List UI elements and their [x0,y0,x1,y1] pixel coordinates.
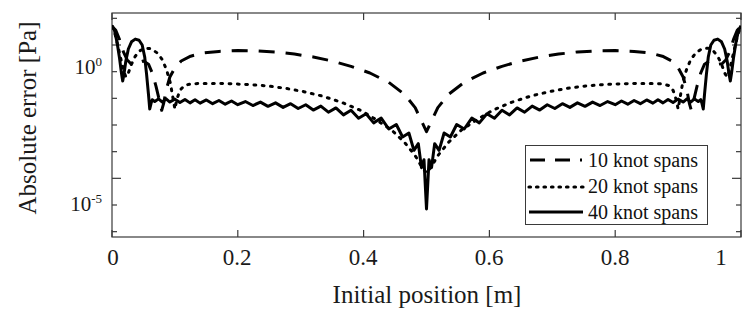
legend-item-1[interactable]: 20 knot spans [526,173,709,199]
legend-label-0: 10 knot spans [588,149,698,172]
legend-item-0[interactable]: 10 knot spans [526,147,709,173]
legend-label-1: 20 knot spans [588,175,698,198]
legend-swatch-solid [526,202,586,222]
legend-item-2[interactable]: 40 knot spans [526,199,709,225]
legend-swatch-dotted [526,176,586,196]
figure-root: Absolute error [Pa] Initial position [m]… [0,0,754,319]
legend-label-2: 40 knot spans [588,201,698,224]
legend[interactable]: 10 knot spans 20 knot spans 40 knot span… [525,145,708,225]
legend-swatch-dashed [526,150,586,170]
